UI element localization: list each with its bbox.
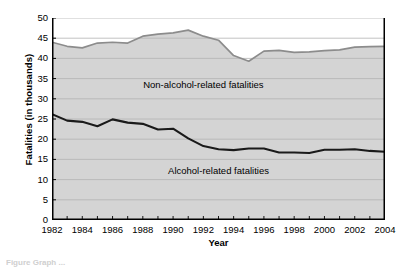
x-tick-label: 1990 bbox=[163, 225, 184, 235]
x-tick-label: 2004 bbox=[374, 225, 395, 235]
x-tick-label: 1996 bbox=[253, 225, 274, 235]
x-tick-label: 1992 bbox=[193, 225, 214, 235]
y-tick-label: 15 bbox=[37, 155, 48, 165]
chart-svg bbox=[52, 18, 385, 220]
y-tick-label: 35 bbox=[37, 74, 48, 84]
x-tick-label: 2000 bbox=[314, 225, 335, 235]
x-tick-label: 1998 bbox=[284, 225, 305, 235]
plot-area: Non-alcohol-related fatalities Alcohol-r… bbox=[52, 18, 385, 220]
y-tick-label: 30 bbox=[37, 94, 48, 104]
y-tick-label: 5 bbox=[43, 195, 48, 205]
y-axis-title: Fatalities (in thousands) bbox=[23, 40, 34, 180]
x-tick-label: 1986 bbox=[102, 225, 123, 235]
x-tick-label: 1984 bbox=[72, 225, 93, 235]
y-tick-label: 50 bbox=[37, 13, 48, 23]
y-tick-label: 25 bbox=[37, 114, 48, 124]
y-tick-label: 40 bbox=[37, 54, 48, 64]
y-tick-label: 45 bbox=[37, 33, 48, 43]
y-tick-label: 20 bbox=[37, 134, 48, 144]
y-tick-label: 10 bbox=[37, 175, 48, 185]
x-tick-label: 1988 bbox=[132, 225, 153, 235]
x-axis-title: Year bbox=[52, 237, 385, 248]
x-tick-label: 1982 bbox=[41, 225, 62, 235]
figure: Fatalities (in thousands) Year Non-alcoh… bbox=[0, 0, 420, 268]
caption-remnant: Figure Graph ... bbox=[6, 258, 246, 268]
x-tick-label: 1994 bbox=[223, 225, 244, 235]
band-label-non-alcohol: Non-alcohol-related fatalities bbox=[143, 79, 263, 90]
x-tick-label: 2002 bbox=[344, 225, 365, 235]
band-label-alcohol: Alcohol-related fatalities bbox=[168, 165, 269, 176]
